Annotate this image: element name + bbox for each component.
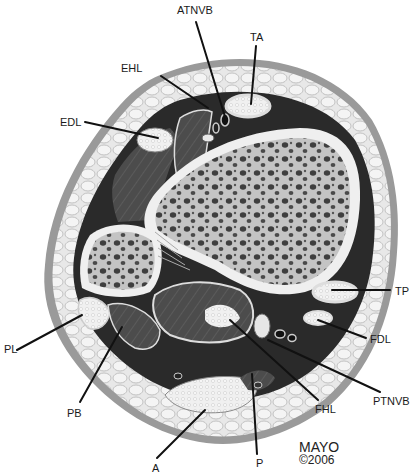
label-ehl: EHL [121, 62, 142, 74]
label-pl: PL [4, 343, 17, 355]
label-ta: TA [250, 31, 264, 43]
label-fdl: FDL [370, 333, 391, 345]
credit-year: ©2006 [299, 453, 335, 467]
ptnvb-vessel [288, 335, 296, 342]
label-fhl: FHL [315, 403, 336, 415]
label-atnvb: ATNVB [177, 4, 213, 16]
edl-tendon [137, 128, 173, 152]
ta-tendon [226, 95, 270, 117]
label-edl: EDL [60, 116, 81, 128]
ptnvb-nerve [254, 314, 270, 338]
atnvb-nerve [202, 134, 214, 142]
label-a: A [152, 462, 160, 474]
sural-vessel [174, 373, 182, 379]
fhl-muscle [153, 282, 253, 342]
plantaris-tendon [254, 382, 262, 388]
label-tp: TP [395, 285, 409, 297]
label-ptnvb: PTNVB [373, 395, 410, 407]
atnvb-vessel [213, 123, 219, 133]
tp-tendon [313, 282, 357, 302]
label-p: P [256, 457, 263, 469]
label-pb: PB [67, 407, 82, 419]
fibula-marrow [88, 232, 155, 290]
ptnvb-vessel [275, 330, 285, 338]
ankle-cross-section-diagram: ATNVB TA EHL EDL TP FDL PL PB FHL PTNVB … [0, 0, 416, 476]
